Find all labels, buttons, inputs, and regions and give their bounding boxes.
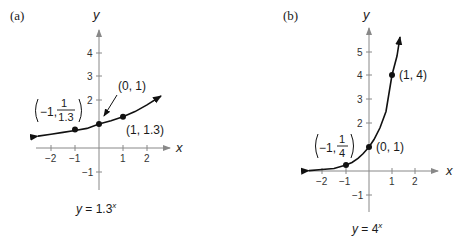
- panel-b-equation: y = 4x: [351, 221, 383, 236]
- panel-a-x-tick: 2: [144, 153, 150, 164]
- panel-a-point-1: [120, 114, 126, 120]
- panel-a-x-label: x: [175, 140, 183, 155]
- svg-text:4: 4: [339, 147, 345, 159]
- panel-b-label-neg1: −1, 1 4: [316, 133, 354, 159]
- panel-a-y-tick: −1: [82, 167, 94, 178]
- panel-b-label: (b): [283, 8, 298, 23]
- svg-text:1: 1: [61, 97, 67, 109]
- panel-a-point-neg1: [72, 127, 78, 133]
- panel-a-y-tick: 4: [87, 48, 93, 59]
- panel-a-equation: y = 1.3x: [75, 201, 117, 216]
- figure: (a) x y −2 −1 1 2 4 3 2 −1: [0, 0, 460, 245]
- panel-b-point-1: [389, 72, 395, 78]
- svg-text:1: 1: [339, 133, 345, 145]
- panel-a-point-0: [96, 121, 102, 127]
- panel-a: (a) x y −2 −1 1 2 4 3 2 −1: [10, 7, 183, 216]
- panel-b-x-tick: 2: [412, 176, 418, 187]
- panel-b-y-tick: 2: [357, 118, 363, 129]
- panel-a-x-tick: −1: [69, 153, 81, 164]
- panel-b-x-label: x: [445, 163, 453, 178]
- panel-b-y-tick: 4: [357, 70, 363, 81]
- panel-a-pointer: [104, 95, 117, 116]
- panel-a-y-tick: 3: [87, 71, 93, 82]
- panel-b-label-1: (1, 4): [399, 68, 427, 82]
- svg-text:−1,: −1,: [319, 141, 336, 155]
- panel-b-x-tick: 1: [389, 176, 395, 187]
- panel-b-y-label: y: [362, 7, 371, 22]
- panel-b-y-tick: −1: [352, 190, 364, 201]
- panel-a-label: (a): [10, 8, 24, 23]
- panel-b-point-0: [366, 144, 372, 150]
- panel-a-label-neg1: −1, 1 1.3: [36, 97, 82, 123]
- svg-text:−1,: −1,: [40, 105, 57, 119]
- panel-a-label-0: (0, 1): [118, 79, 146, 93]
- panel-b: (b) x y −2 −1 1 2 5 4 3 2 −1: [283, 7, 453, 236]
- panel-b-y-tick: 5: [357, 47, 363, 58]
- panel-a-y-label: y: [92, 7, 101, 22]
- panel-b-point-neg1: [343, 162, 349, 168]
- panel-a-x-tick: −2: [45, 153, 57, 164]
- panel-b-label-0: (0, 1): [376, 140, 404, 154]
- panel-a-y-tick: 2: [87, 95, 93, 106]
- panel-b-x-tick: −1: [339, 176, 351, 187]
- panel-a-x-tick: 1: [120, 153, 126, 164]
- svg-text:1.3: 1.3: [58, 111, 73, 123]
- panel-a-label-1: (1, 1.3): [126, 123, 164, 137]
- panel-b-y-tick: 3: [357, 94, 363, 105]
- panel-b-x-tick: −2: [316, 176, 328, 187]
